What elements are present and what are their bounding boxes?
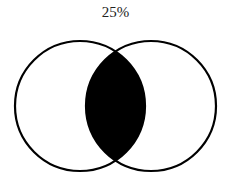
venn-diagram (0, 0, 229, 182)
